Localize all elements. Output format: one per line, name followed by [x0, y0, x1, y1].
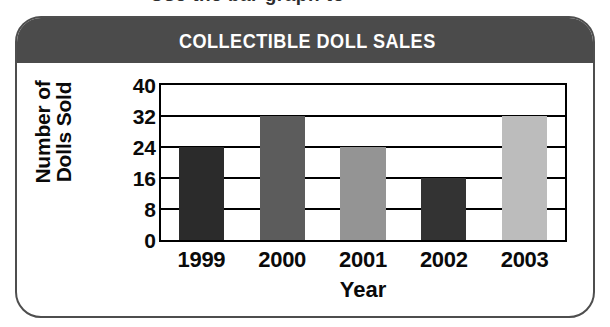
bar — [260, 116, 305, 240]
x-axis-tick-label: 2003 — [484, 247, 565, 273]
plot-area — [159, 83, 567, 242]
chart-title-band: COLLECTIBLE DOLL SALES — [17, 18, 595, 63]
x-axis-tick-label: 2001 — [323, 247, 404, 273]
bar — [340, 147, 385, 240]
y-axis-tick-label: 32 — [112, 106, 156, 127]
chart-card: COLLECTIBLE DOLL SALES Number of Dolls S… — [15, 16, 595, 318]
y-axis-title: Number of Dolls Sold — [30, 52, 76, 212]
y-axis-tick-label: 0 — [112, 230, 156, 251]
y-axis-tick-labels: 0816243240 — [112, 83, 156, 242]
bar — [502, 116, 547, 240]
cropped-header-text: Use the bar graph to — [0, 0, 610, 14]
x-axis-tick-labels: 19992000200120022003 — [159, 247, 567, 277]
bar — [179, 147, 224, 240]
x-axis-tick-label: 2002 — [403, 247, 484, 273]
x-axis-tick-label: 1999 — [161, 247, 242, 273]
chart-body: Number of Dolls Sold 0816243240 19992000… — [17, 63, 595, 318]
y-axis-title-line2: Dolls Sold — [53, 82, 74, 183]
y-axis-tick-label: 40 — [112, 75, 156, 96]
y-axis-tick-label: 8 — [112, 199, 156, 220]
y-axis-tick-label: 16 — [112, 168, 156, 189]
y-axis-title-line1: Number of — [32, 80, 53, 183]
x-axis-title: Year — [159, 277, 567, 303]
bar-series — [161, 85, 565, 240]
y-axis-tick-label: 24 — [112, 137, 156, 158]
bar — [421, 178, 466, 240]
chart-title: COLLECTIBLE DOLL SALES — [179, 29, 436, 53]
cropped-header-text-label: Use the bar graph to — [150, 0, 345, 6]
x-axis-tick-label: 2000 — [242, 247, 323, 273]
